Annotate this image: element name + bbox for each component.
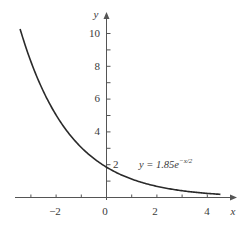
equation-main: y = 1.85e — [138, 159, 179, 170]
x-tick-label: −2 — [49, 205, 61, 217]
svg-text:y = 1.85e−x/2: y = 1.85e−x/2 — [138, 157, 193, 170]
exponential-decay-chart: −2 0 2 4 2 4 6 8 10 x y y = 1.85e−x/2 — [0, 0, 247, 227]
y-tick-label: 2 — [113, 158, 119, 170]
equation-annotation: y = 1.85e−x/2 — [138, 157, 193, 170]
x-axis-label: x — [230, 205, 236, 217]
axes — [15, 12, 237, 201]
y-tick-label: 8 — [95, 60, 101, 72]
x-tick-label: 2 — [152, 205, 158, 217]
y-tick-label: 10 — [89, 27, 101, 39]
x-tick-label: 0 — [102, 205, 108, 217]
y-ticks — [107, 34, 111, 182]
curve-series — [20, 29, 220, 194]
x-axis-arrow-icon — [230, 195, 237, 201]
y-axis-label: y — [93, 8, 99, 20]
x-tick-label: 4 — [204, 205, 210, 217]
y-axis-arrow-icon — [104, 12, 110, 19]
y-tick-label: 6 — [95, 92, 101, 104]
equation-exponent: −x/2 — [179, 157, 193, 165]
y-tick-label: 4 — [95, 125, 101, 137]
